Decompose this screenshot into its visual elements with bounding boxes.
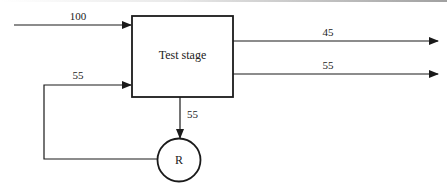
- input-flow: 100: [14, 10, 131, 25]
- repair-flow-label: 55: [187, 108, 199, 120]
- output-bottom-label: 55: [323, 59, 335, 71]
- output-top-label: 45: [323, 26, 335, 38]
- feedback-flow-label: 55: [73, 69, 85, 81]
- test-stage-label: Test stage: [159, 48, 206, 62]
- flow-diagram: 100 Test stage 45 55 55 R 55: [0, 0, 447, 193]
- test-stage-node: Test stage: [132, 16, 233, 97]
- input-flow-label: 100: [70, 10, 87, 22]
- repair-flow: 55: [180, 97, 199, 138]
- r-label: R: [175, 153, 183, 167]
- r-node: R: [158, 139, 201, 182]
- output-flow-bottom: 55: [233, 59, 438, 74]
- output-flow-top: 45: [233, 26, 438, 41]
